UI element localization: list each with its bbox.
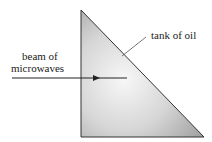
tank-label-leader <box>122 37 146 56</box>
beam-label-line1: beam of <box>22 50 58 62</box>
tank-label: tank of oil <box>151 29 196 41</box>
beam-label-line2: microwaves <box>11 62 64 74</box>
